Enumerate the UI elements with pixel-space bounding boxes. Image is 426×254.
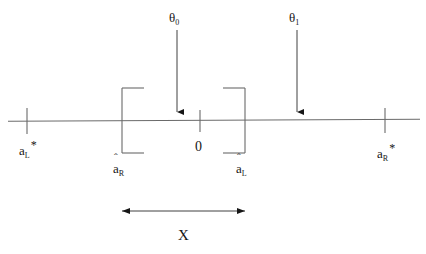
x-span-label: X (178, 228, 189, 243)
a-star-L-superscript: * (31, 138, 37, 152)
a-hat-L-circumflex: ˆ (237, 152, 241, 163)
x-span-text: X (178, 227, 189, 243)
a-star-L-base: a (19, 143, 25, 158)
a-star-R-label: aR* (377, 145, 394, 161)
a-hat-R-circumflex: ˆ (114, 152, 118, 163)
a-star-R-superscript: * (389, 141, 395, 155)
diagram-canvas (0, 0, 426, 254)
a-hat-L-base: a (236, 161, 242, 176)
theta-1-label: θ1 (289, 11, 299, 24)
a-hat-R-base: a (113, 161, 119, 176)
a-hat-L-glyph-wrap: ˆa (236, 160, 242, 176)
a-star-R-subscript: R (383, 154, 388, 163)
interval-diagram-figure: θ0 θ1 aL* ˆaR 0 ˆaL aR* X (0, 0, 426, 254)
a-hat-R-glyph-wrap: ˆa (113, 160, 119, 176)
a-hat-R-subscript: R (119, 169, 124, 178)
axis-line-group (8, 119, 420, 121)
a-star-L-label: aL* (19, 142, 36, 158)
real-line (8, 119, 420, 121)
theta-1-subscript: 1 (295, 18, 299, 27)
origin-value: 0 (195, 139, 202, 154)
origin-label: 0 (195, 140, 202, 154)
a-star-R-base: a (377, 146, 383, 161)
a-hat-L-subscript: L (242, 169, 247, 178)
theta-0-label: θ0 (169, 11, 179, 24)
a-hat-L-label: ˆaL (236, 160, 247, 176)
a-hat-R-label: ˆaR (113, 160, 124, 176)
a-star-L-subscript: L (25, 151, 30, 160)
theta-0-subscript: 0 (175, 18, 179, 27)
